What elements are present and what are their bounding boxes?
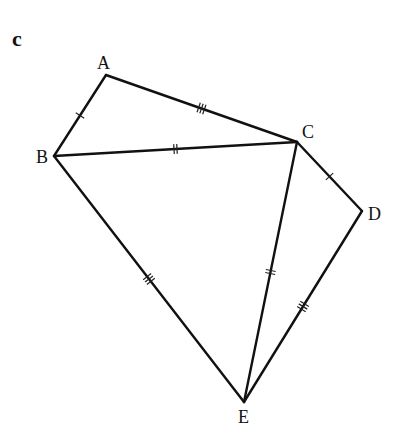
geometry-diagram: c A B C D E <box>0 0 396 427</box>
edges <box>54 75 362 402</box>
tick-mark-bc <box>177 144 178 154</box>
vertex-label-b: B <box>36 147 48 167</box>
edge-ce <box>244 142 297 402</box>
part-label: c <box>12 26 22 51</box>
vertex-label-a: A <box>97 53 110 73</box>
edge-bc <box>54 142 297 156</box>
vertex-label-d: D <box>368 204 381 224</box>
tick-mark-bc <box>174 144 175 154</box>
vertex-label-e: E <box>238 407 249 427</box>
vertex-label-c: C <box>302 122 314 142</box>
tick-marks <box>76 103 333 312</box>
